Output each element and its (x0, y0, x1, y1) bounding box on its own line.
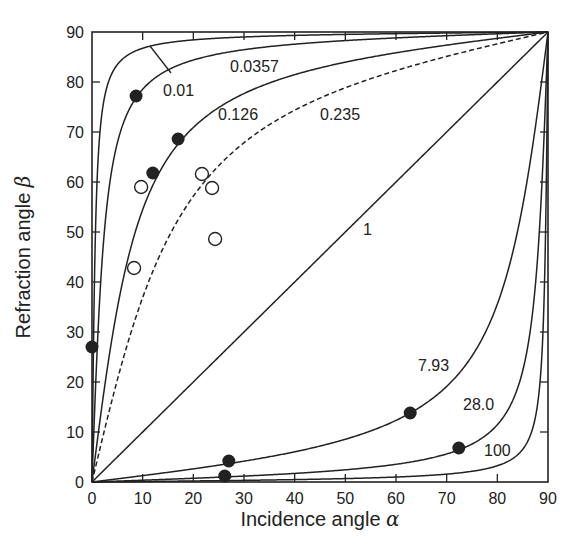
y-tick-label: 80 (66, 74, 84, 91)
curve-label-0.0357: 0.0357 (230, 58, 279, 75)
x-tick-label: 20 (184, 490, 202, 507)
open-data-point (135, 181, 148, 194)
y-tick-label: 70 (66, 124, 84, 141)
x-tick-label: 70 (438, 490, 456, 507)
curve-label-0.126: 0.126 (218, 106, 258, 123)
chart: 0.010.03570.1260.23517.9328.0100 0102030… (0, 0, 582, 560)
open-data-point (209, 233, 222, 246)
x-tick-label: 40 (286, 490, 304, 507)
x-tick-label: 0 (88, 490, 97, 507)
curves (92, 32, 548, 482)
curve-label-100: 100 (484, 442, 511, 459)
filled-data-point (172, 133, 185, 146)
y-tick-label: 0 (75, 474, 84, 491)
filled-data-point (146, 167, 159, 180)
label-pointer (150, 46, 171, 73)
y-tick-label: 50 (66, 224, 84, 241)
filled-data-point (222, 455, 235, 468)
curve-label-1: 1 (363, 221, 372, 238)
filled-data-point (218, 470, 231, 483)
y-tick-label: 60 (66, 174, 84, 191)
filled-data-point (404, 407, 417, 420)
x-tick-label: 60 (387, 490, 405, 507)
x-tick-label: 80 (488, 490, 506, 507)
y-tick-label: 30 (66, 324, 84, 341)
open-data-point (128, 262, 141, 275)
y-tick-label: 40 (66, 274, 84, 291)
data-points (86, 90, 466, 483)
curve-label-28.0: 28.0 (463, 396, 494, 413)
open-data-point (195, 168, 208, 181)
x-tick-label: 30 (235, 490, 253, 507)
filled-data-point (452, 442, 465, 455)
filled-data-point (130, 90, 143, 103)
curve-label-7.93: 7.93 (418, 357, 449, 374)
curve-1 (92, 32, 548, 482)
x-axis-title: Incidence angle α (240, 507, 400, 531)
curve-label-0.01: 0.01 (163, 82, 194, 99)
curve-labels: 0.010.03570.1260.23517.9328.0100 (163, 58, 511, 459)
y-axis-title: Refraction angle β (11, 176, 35, 339)
x-tick-label: 10 (134, 490, 152, 507)
y-tick-label: 20 (66, 374, 84, 391)
y-tick-label: 90 (66, 24, 84, 41)
y-tick-label: 10 (66, 424, 84, 441)
open-data-point (206, 182, 219, 195)
x-tick-label: 50 (336, 490, 354, 507)
curve-label-0.235: 0.235 (320, 106, 360, 123)
x-tick-label: 90 (539, 490, 557, 507)
